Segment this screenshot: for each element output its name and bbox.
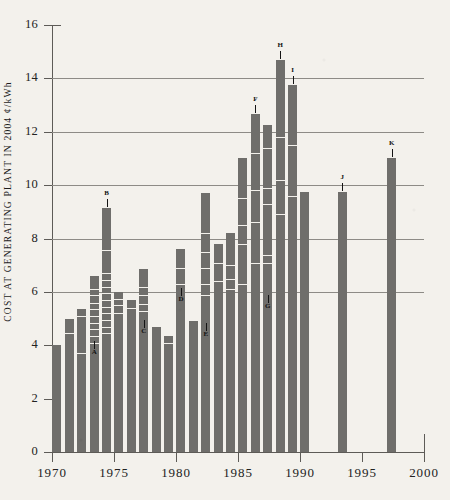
callout-label-D: D: [174, 296, 188, 303]
bar-segment-divider: [90, 295, 99, 296]
bar-segment-divider: [251, 190, 260, 191]
bar-segment-divider: [114, 299, 123, 300]
bar-segment-divider: [238, 198, 247, 199]
callout-label-A: A: [87, 349, 101, 356]
bar-1988: [276, 60, 285, 452]
x-tick-1990: [300, 452, 301, 462]
y-tick-14: [44, 78, 52, 79]
x-tick-label-1975: 1975: [91, 465, 137, 481]
bar-segment-divider: [90, 323, 99, 324]
bar-segment-divider: [263, 148, 272, 149]
bar-segment-divider: [77, 353, 86, 354]
y-tick-label-0: 0: [12, 444, 38, 459]
cost-at-generating-plant-bar-chart: ABCDEFGHIJK 0246810121416 19701975198019…: [0, 0, 450, 500]
bar-segment-divider: [201, 252, 210, 253]
bar-1975: [114, 292, 123, 452]
bar-segment-divider: [226, 289, 235, 290]
y-tick-label-6: 6: [12, 284, 38, 299]
y-tick-0: [44, 452, 52, 453]
bar-1981: [189, 321, 198, 452]
bar-segment-divider: [276, 214, 285, 215]
bar-1980: [176, 249, 185, 452]
y-tick-label-2: 2: [12, 391, 38, 406]
x-tick-1980: [176, 452, 177, 462]
bar-segment-divider: [263, 188, 272, 189]
callout-label-E: E: [199, 331, 213, 338]
y-tick-4: [44, 345, 52, 346]
x-tick-1975: [114, 452, 115, 462]
bar-segment-divider: [201, 233, 210, 234]
x-tick-1995: [362, 452, 363, 462]
gridline-y-14: [52, 78, 424, 79]
bar-1971: [65, 319, 74, 452]
callout-leader-J: [342, 183, 343, 191]
bar-1987: [263, 125, 272, 452]
callout-label-J: J: [335, 174, 349, 181]
y-tick-label-16: 16: [12, 17, 38, 32]
callout-leader-B: [107, 199, 108, 207]
bar-segment-divider: [139, 304, 148, 305]
y-tick-label-10: 10: [12, 177, 38, 192]
bar-segment-divider: [90, 336, 99, 337]
bar-segment-divider: [214, 281, 223, 282]
y-tick-label-12: 12: [12, 124, 38, 139]
bar-segment-divider: [90, 316, 99, 317]
y-tick-6: [44, 292, 52, 293]
bar-segment-divider: [276, 137, 285, 138]
bar-segment-divider: [263, 255, 272, 256]
x-tick-label-2000: 2000: [401, 465, 447, 481]
bar-segment-divider: [102, 250, 111, 251]
bar-segment-divider: [238, 244, 247, 245]
bar-segment-divider: [288, 145, 297, 146]
bar-segment-divider: [102, 287, 111, 288]
x-tick-2000: [424, 452, 425, 462]
y-tick-label-14: 14: [12, 70, 38, 85]
bar-segment-divider: [176, 284, 185, 285]
bar-1984: [226, 233, 235, 452]
bar-segment-divider: [139, 295, 148, 296]
bar-1983: [214, 244, 223, 452]
bar-segment-divider: [201, 268, 210, 269]
bar-1972: [77, 309, 86, 452]
bar-1973: [90, 276, 99, 452]
bar-segment-divider: [77, 316, 86, 317]
bar-segment-divider: [90, 303, 99, 304]
bar-segment-divider: [226, 279, 235, 280]
bar-segment-divider: [102, 313, 111, 314]
bar-1970: [52, 345, 61, 452]
bar-segment-divider: [201, 295, 210, 296]
bar-segment-divider: [276, 180, 285, 181]
bar-segment-divider: [226, 265, 235, 266]
bar-segment-divider: [102, 320, 111, 321]
y-tick-16: [44, 25, 52, 26]
bar-1986: [251, 114, 260, 452]
bar-segment-divider: [201, 284, 210, 285]
x-tick-1985: [238, 452, 239, 462]
bar-segment-divider: [90, 329, 99, 330]
bar-1977: [139, 269, 148, 452]
bar-1976: [127, 300, 136, 452]
x-tick-1970: [52, 452, 53, 462]
y-tick-label-4: 4: [12, 337, 38, 352]
bar-segment-divider: [251, 263, 260, 264]
bar-segment-divider: [90, 289, 99, 290]
bar-segment-divider: [114, 305, 123, 306]
x-tick-label-1990: 1990: [277, 465, 323, 481]
callout-leader-K: [392, 149, 393, 157]
x-tick-label-1970: 1970: [29, 465, 75, 481]
bar-1993: [338, 192, 347, 452]
bar-1997: [387, 158, 396, 452]
bar-1974: [102, 208, 111, 452]
bar-segment-divider: [238, 284, 247, 285]
bar-segment-divider: [251, 153, 260, 154]
bar-segment-divider: [102, 307, 111, 308]
y-tick-8: [44, 239, 52, 240]
bar-segment-divider: [65, 333, 74, 334]
callout-label-H: H: [273, 42, 287, 49]
y-tick-2: [44, 399, 52, 400]
bar-segment-divider: [102, 293, 111, 294]
callout-leader-H: [280, 51, 281, 59]
bar-1990: [300, 192, 309, 452]
y-tick-10: [44, 185, 52, 186]
bar-segment-divider: [263, 204, 272, 205]
